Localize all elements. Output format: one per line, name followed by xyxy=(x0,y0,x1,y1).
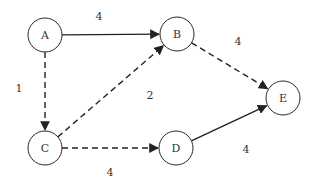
graph-diagram: ABCDE 412444 xyxy=(0,0,316,187)
node-b: B xyxy=(160,17,194,51)
edge-weight-a-b: 4 xyxy=(96,10,103,23)
edge-b-e xyxy=(192,43,268,89)
node-d: D xyxy=(159,131,193,165)
edge-a-b xyxy=(62,34,159,35)
nodes-group: ABCDE xyxy=(28,17,300,165)
node-label: E xyxy=(279,92,287,105)
node-c: C xyxy=(28,131,62,165)
node-a: A xyxy=(28,18,62,52)
node-label: D xyxy=(172,142,181,155)
edge-weight-d-e: 4 xyxy=(243,143,250,156)
edge-d-e xyxy=(191,106,266,141)
node-e: E xyxy=(266,81,300,115)
edge-weight-a-c: 1 xyxy=(16,82,23,95)
edge-weight-c-b: 2 xyxy=(147,89,154,102)
node-label: C xyxy=(41,142,49,155)
node-label: A xyxy=(40,29,50,42)
edges-group xyxy=(45,34,268,148)
edge-weight-c-d: 4 xyxy=(107,166,114,179)
edge-weight-b-e: 4 xyxy=(235,35,242,48)
node-label: B xyxy=(173,28,181,41)
